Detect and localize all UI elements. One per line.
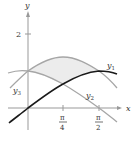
graph-figure: x y 2 π 4 π 2 y1 y2 y3 — [0, 0, 134, 141]
curve-label-y2: y2 — [85, 91, 94, 101]
x-tick-pi-2-den: 2 — [96, 124, 100, 132]
y-tick-label-2: 2 — [16, 30, 21, 39]
curve-label-y3: y3 — [12, 86, 22, 96]
x-tick-pi-4-num: π — [60, 114, 65, 122]
x-axis-label: x — [126, 104, 131, 113]
y-axis-label: y — [24, 1, 30, 10]
y-axis-arrow-icon — [26, 11, 30, 17]
curve-label-y1: y1 — [106, 61, 115, 71]
x-axis-arrow-icon — [117, 106, 122, 110]
x-tick-pi-4-den: 4 — [60, 124, 65, 132]
shaded-region — [28, 57, 99, 84]
x-tick-pi-2-num: π — [96, 114, 101, 122]
